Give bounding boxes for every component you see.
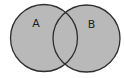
set-a-label: A bbox=[32, 17, 40, 30]
set-b-label: B bbox=[88, 18, 96, 31]
venn-diagram: A B bbox=[0, 0, 124, 78]
